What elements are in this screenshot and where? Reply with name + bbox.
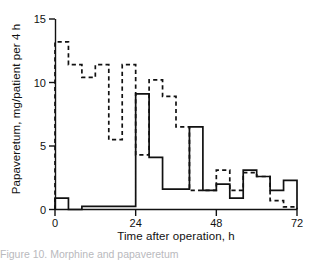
y-axis-tick-labels: 051015	[34, 13, 46, 216]
y-tick-label: 5	[40, 140, 46, 152]
x-tick-label: 48	[210, 217, 222, 229]
x-axis-label: Time after operation, h	[55, 230, 297, 242]
y-axis-ticks	[49, 19, 55, 210]
x-tick-label: 0	[52, 217, 58, 229]
x-axis-ticks	[55, 210, 297, 217]
figure-caption: Figure 10. Morphine and papaveretum	[0, 248, 315, 260]
axis-group: 051015 0244872	[34, 13, 303, 229]
y-tick-label: 10	[34, 77, 46, 89]
x-axis-tick-labels: 0244872	[52, 217, 303, 229]
y-axis-label: Papaveretum, mg/patient per 4 h	[10, 9, 22, 209]
x-tick-label: 24	[130, 217, 142, 229]
series-dashed-line	[55, 42, 297, 210]
y-tick-label: 0	[40, 204, 46, 216]
y-tick-label: 15	[34, 13, 46, 25]
x-tick-label: 72	[291, 217, 303, 229]
